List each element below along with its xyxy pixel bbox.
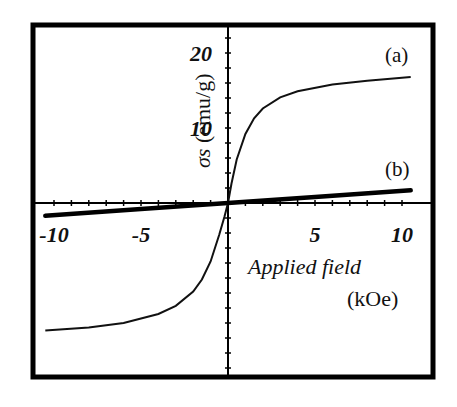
tick-labels: -10-55101020: [39, 41, 413, 247]
x-axis-title: Applied field: [246, 254, 362, 279]
y-axis-unit: (emu/g): [190, 73, 215, 148]
x-axis-unit: (kOe): [347, 286, 398, 311]
x-tick-label: 10: [391, 222, 413, 247]
x-tick-label: -10: [39, 222, 68, 247]
magnetization-chart: -10-55101020 (a) (b) σs (emu/g) Applied …: [0, 0, 457, 407]
x-tick-label: 5: [310, 222, 321, 247]
y-axis-symbol: σs: [190, 149, 215, 168]
series-a-label: (a): [385, 43, 408, 67]
x-tick-label: -5: [132, 222, 150, 247]
y-axis-title: σs (emu/g): [190, 73, 215, 168]
series-b-label: (b): [385, 157, 410, 181]
y-tick-label: 20: [189, 41, 212, 66]
